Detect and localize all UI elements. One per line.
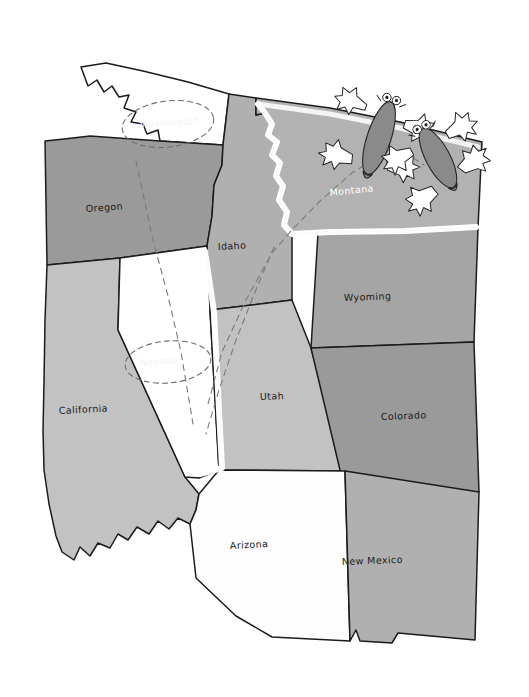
state-label-arizona: Arizona bbox=[230, 538, 269, 551]
state-label-idaho: Idaho bbox=[218, 240, 247, 252]
state-label-new-mexico: New Mexico bbox=[342, 554, 403, 567]
state-label-utah: Utah bbox=[260, 390, 284, 402]
state-washington[interactable] bbox=[81, 63, 229, 145]
western-us-map: Washington Oregon Idaho Montana Wyoming … bbox=[0, 0, 529, 697]
state-label-colorado: Colorado bbox=[381, 409, 427, 422]
states-layer bbox=[43, 63, 482, 643]
state-label-wyoming: Wyoming bbox=[344, 290, 392, 303]
state-arizona[interactable] bbox=[190, 470, 350, 641]
state-wyoming[interactable] bbox=[311, 228, 478, 348]
state-oregon[interactable] bbox=[45, 136, 223, 265]
map-canvas: Washington Oregon Idaho Montana Wyoming … bbox=[0, 0, 529, 697]
